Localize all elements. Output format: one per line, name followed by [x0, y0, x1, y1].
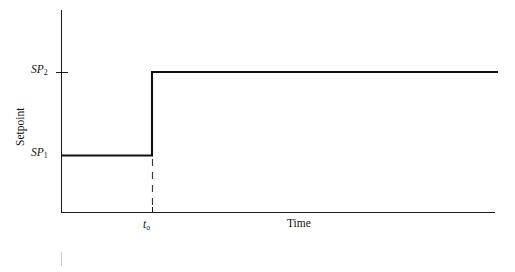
y-axis-title: Setpoint [15, 97, 27, 157]
x-axis-title: Time [287, 218, 311, 230]
y-tick-label-sp2-subscript: 2 [44, 68, 48, 77]
y-tick-label-sp1-subscript: 1 [44, 151, 48, 160]
y-tick-label-sp2: SP2 [31, 64, 48, 76]
y-tick-label-sp2-base: SP [31, 63, 44, 75]
chart-canvas [0, 0, 515, 272]
x-tick-label-t0-subscript: o [146, 223, 150, 232]
y-tick-label-sp1-base: SP [31, 146, 44, 158]
setpoint-step-chart: SP2 SP1 to Time Setpoint [0, 0, 515, 272]
setpoint-step-curve [61, 72, 498, 156]
y-tick-label-sp1: SP1 [31, 147, 48, 159]
x-tick-label-t0: to [143, 219, 150, 231]
